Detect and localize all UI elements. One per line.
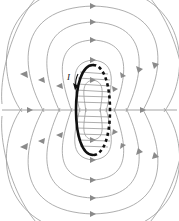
arrowhead-lower-right-d	[112, 129, 118, 135]
field-line-upper-6	[6, 0, 179, 112]
arrowhead-upper-3	[90, 37, 96, 43]
arrowhead-lower-5	[90, 211, 96, 217]
magnetic-field-figure: I	[0, 0, 179, 221]
field-line-upper-3	[62, 40, 123, 112]
interior-line-9	[76, 128, 111, 129]
arrowhead-upper-2	[90, 57, 96, 63]
arrowhead-upper-1	[90, 77, 96, 83]
arrowhead-upper-5	[90, 3, 96, 9]
arrowhead-lower-4	[90, 195, 96, 201]
arrowhead-lower-left-b	[20, 143, 28, 150]
interior-line-7	[75, 116, 111, 117]
arrowhead-lower-right-a	[120, 143, 126, 149]
interior-line-6	[75, 102, 111, 103]
interior-line-5	[76, 96, 111, 97]
arrowhead-lower-left-a	[38, 138, 45, 144]
field-line-upper-4	[47, 22, 139, 112]
arrowhead-upper-right-d	[112, 86, 118, 92]
arrowhead-lower-left-c	[56, 132, 63, 138]
current-indicator: I	[66, 72, 79, 90]
field-line-lower-3	[62, 108, 123, 180]
arrowhead-lower-2	[90, 157, 96, 163]
arrowhead-upper-left-b	[20, 71, 28, 78]
field-line-lower-4	[47, 108, 139, 198]
interior-line-10	[77, 134, 111, 135]
arrowhead-lower-1	[90, 137, 96, 143]
interior-line-3	[77, 84, 111, 86]
arrowhead-lower-3	[90, 177, 96, 183]
arrowhead-axis-left	[27, 107, 33, 113]
arrowhead-upper-right-a	[120, 72, 126, 78]
field-line-diagram: I	[0, 0, 179, 221]
field-line-lower-1	[84, 108, 102, 140]
field-lines-interior	[75, 72, 111, 147]
field-lines-lower	[2, 108, 179, 221]
interior-line-8	[76, 122, 111, 123]
arrowhead-upper-left-a	[38, 77, 45, 83]
arrowhead-upper-4	[90, 19, 96, 25]
current-label: I	[66, 72, 71, 82]
arrowhead-upper-left-c	[56, 83, 63, 89]
arrowhead-axis-right	[140, 107, 146, 113]
interior-line-4	[76, 90, 111, 92]
field-line-lower-6	[6, 108, 179, 221]
field-lines-upper	[2, 0, 179, 112]
